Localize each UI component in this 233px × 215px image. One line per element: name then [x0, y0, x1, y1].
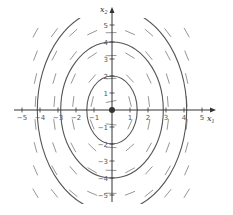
direction-field-segment	[126, 144, 134, 151]
x1-axis-arrowhead-icon	[210, 108, 216, 113]
x2-tick-label: −3	[98, 158, 108, 166]
direction-field-segment	[71, 74, 75, 83]
direction-field-segment	[184, 189, 189, 198]
direction-field-segment	[73, 97, 74, 107]
direction-field-segment	[125, 191, 134, 195]
x1-tick-label: 3	[164, 114, 168, 122]
direction-field-segment	[185, 51, 189, 60]
x2-tick-label: 4	[104, 39, 109, 47]
x2-tick: 3	[104, 56, 115, 64]
direction-field-segment	[106, 101, 116, 103]
direction-field-segment	[125, 31, 134, 35]
direction-field-segment	[34, 166, 38, 175]
x1-tick-label: −1	[89, 114, 99, 122]
x2-tick-label: −1	[98, 124, 108, 132]
direction-field-segment	[89, 75, 96, 83]
direction-field-segment	[88, 168, 97, 173]
x2-tick-label: 3	[104, 56, 108, 64]
direction-field-segment	[166, 74, 169, 84]
direction-field-segment	[185, 143, 188, 153]
direction-field-segment	[88, 53, 96, 59]
direction-field-segment	[89, 144, 96, 151]
x2-tick-label: −4	[98, 175, 109, 183]
direction-field-segment	[35, 97, 36, 107]
direction-field-segment	[53, 74, 56, 84]
x2-tick-label: 2	[104, 73, 108, 81]
direction-field	[33, 28, 189, 197]
direction-field-segment	[145, 190, 153, 196]
direction-field-segment	[165, 166, 170, 175]
direction-field-segment	[146, 143, 151, 152]
direction-field-segment	[34, 143, 37, 153]
x2-axis-arrowhead-icon	[110, 7, 115, 13]
direction-field-segment	[33, 28, 38, 37]
x1-tick-label: 4	[182, 114, 187, 122]
direction-field-segment	[70, 167, 77, 175]
x2-axis-label: x2	[100, 5, 108, 15]
direction-field-segment	[184, 28, 189, 37]
direction-field-segment	[88, 191, 97, 195]
direction-field-segment	[71, 143, 76, 152]
direction-field-segment	[148, 97, 149, 107]
direction-field-segment	[146, 167, 153, 174]
x2-tick: 1	[104, 90, 115, 98]
x2-tick-label: 5	[104, 22, 108, 30]
direction-field-segment	[70, 52, 76, 60]
x2-tick-label: −2	[98, 141, 108, 149]
direction-field-segment	[127, 75, 134, 82]
x1-tick-label: −5	[17, 114, 27, 122]
direction-field-segment	[145, 29, 153, 36]
x1-tick-label: 5	[200, 114, 204, 122]
direction-field-segment	[52, 51, 57, 60]
x1-tick-label: −2	[71, 114, 81, 122]
direction-field-segment	[51, 29, 57, 37]
direction-field-segment	[186, 74, 188, 84]
x2-tick: 5	[104, 22, 115, 30]
x1-tick-label: 2	[146, 114, 150, 122]
direction-field-segment	[33, 189, 38, 198]
x2-tick-label: −5	[98, 192, 108, 200]
phase-portrait-diagram: −5−4−3−2−112345 54321−1−2−3−4−5 x1 x2	[0, 0, 233, 215]
x1-tick-label: 1	[128, 114, 132, 122]
direction-field-segment	[54, 97, 55, 107]
direction-field-segment	[34, 74, 36, 84]
direction-field-segment	[34, 51, 38, 60]
x1-tick-label: −3	[53, 114, 63, 122]
direction-field-segment	[165, 189, 171, 197]
direction-field-segment	[165, 29, 171, 37]
direction-field-segment	[53, 143, 56, 152]
direction-field-segment	[88, 31, 97, 35]
direction-field-segment	[166, 143, 169, 152]
direction-field-segment	[51, 189, 57, 197]
direction-field-segment	[167, 97, 168, 107]
x1-axis-label: x1	[207, 114, 215, 124]
direction-field-segment	[126, 53, 135, 58]
equilibrium-point	[109, 107, 115, 113]
direction-field-segment	[165, 51, 170, 60]
direction-field-segment	[129, 97, 132, 107]
direction-field-segment	[185, 166, 189, 175]
direction-field-segment	[146, 52, 152, 60]
phase-plane-plot: −5−4−3−2−112345 54321−1−2−3−4−5 x1 x2	[0, 0, 233, 215]
direction-field-segment	[70, 29, 77, 36]
direction-field-segment	[147, 74, 151, 83]
direction-field-segment	[91, 97, 93, 107]
direction-field-segment	[52, 166, 57, 175]
x1-tick-label: −4	[35, 114, 46, 122]
x2-tick-label: 1	[104, 90, 108, 98]
